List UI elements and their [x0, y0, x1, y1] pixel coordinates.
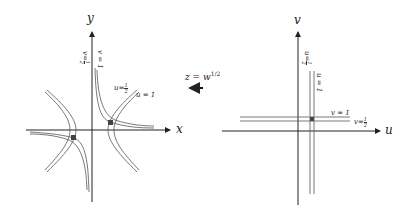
label-v-half: v=12: [354, 117, 367, 128]
hyperbola-u-half-left: [47, 90, 76, 172]
label-u-one: u = 1: [136, 92, 155, 99]
intersection-marker-q1: [108, 120, 113, 125]
denominator: 2: [301, 61, 306, 64]
denominator: 2: [364, 123, 367, 128]
fraction: 12: [124, 83, 127, 94]
hyperbola-u-half-right: [108, 90, 137, 172]
fraction: 12: [301, 61, 312, 64]
hyperbola-u-one-left: [45, 92, 70, 170]
label-v-one: v = 1: [331, 110, 350, 117]
hyperbola-v-half-q3: [30, 132, 89, 192]
label-u-half: u=12: [114, 83, 128, 94]
label-u-one-rotated: u = 1: [315, 73, 322, 92]
fraction: 12: [79, 61, 90, 64]
intersection-marker-q3: [71, 135, 76, 140]
fraction: 12: [364, 117, 367, 128]
hyperbola-u-one-right: [114, 92, 139, 170]
hyperbola-v-one-q3: [30, 134, 87, 190]
y-axis-label: y: [87, 12, 94, 24]
mapping-eq-w: = w: [190, 72, 211, 82]
mapping-exponent: 1/2: [211, 70, 221, 77]
intersection-marker: [310, 117, 314, 121]
x-axis-label: x: [176, 123, 183, 135]
u-axis-label: u: [385, 124, 393, 136]
denominator: 2: [124, 89, 127, 94]
label-v-one-rotated: v = 1: [96, 50, 103, 69]
label-v-half-rotated: v=12: [79, 51, 90, 64]
label-u-half-rotated: u=12: [301, 51, 312, 65]
mapping-label: z = w1/2: [185, 71, 220, 82]
denominator: 2: [79, 61, 84, 64]
v-axis-label: v: [294, 14, 301, 26]
